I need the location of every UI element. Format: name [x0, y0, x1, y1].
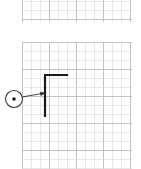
drawing-svg — [0, 0, 141, 169]
geometry-layer — [45, 75, 67, 116]
main-grid-panel — [22, 42, 132, 169]
drawing-canvas — [0, 0, 141, 169]
callout-balloon-center-dot — [12, 97, 16, 101]
grid-layer — [22, 0, 132, 169]
top-grid-panel — [22, 0, 132, 22]
l-shaped-profile-polyline — [45, 75, 67, 116]
